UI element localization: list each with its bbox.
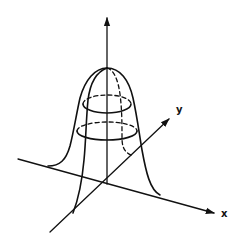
bell-outline-right <box>107 68 160 195</box>
bell-outline-left <box>48 68 107 166</box>
y-axis <box>50 119 169 232</box>
x-axis <box>18 159 214 213</box>
y-axis-label: y <box>176 105 183 115</box>
gaussian-bell-diagram <box>0 0 240 250</box>
x-axis-label: x <box>221 209 227 219</box>
